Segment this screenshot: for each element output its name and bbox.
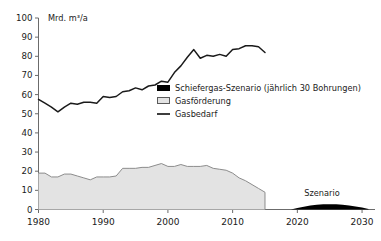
scenario-annotation-label: Szenario <box>304 188 339 198</box>
legend-item-label: Gasbedarf <box>175 109 218 119</box>
x-tick-label: 1990 <box>92 217 115 227</box>
x-tick-label: 2020 <box>286 217 309 227</box>
legend-swatch-production <box>158 98 170 104</box>
y-tick-label: 0 <box>27 205 32 215</box>
y-tick-label: 60 <box>22 90 33 100</box>
x-tick-label: 2000 <box>156 217 179 227</box>
y-tick-label: 90 <box>22 32 33 42</box>
legend-swatch-scenario <box>157 85 170 91</box>
gas-demand-production-chart: 0102030405060708090100 19801990200020102… <box>0 0 381 241</box>
y-axis-unit-label: Mrd. m³/a <box>48 13 88 23</box>
y-tick-label: 10 <box>22 185 33 195</box>
x-tick-label: 2030 <box>351 217 374 227</box>
y-tick-label: 20 <box>22 166 33 176</box>
y-tick-label: 100 <box>16 13 32 23</box>
legend-item-label: Gasförderung <box>175 96 231 106</box>
x-tick-label: 2010 <box>221 217 244 227</box>
y-tick-label: 40 <box>22 128 33 138</box>
x-tick-label: 1980 <box>27 217 50 227</box>
y-tick-label: 70 <box>22 70 33 80</box>
y-tick-label: 30 <box>22 147 33 157</box>
y-tick-label: 80 <box>22 51 33 61</box>
chart-container: 0102030405060708090100 19801990200020102… <box>0 0 381 241</box>
y-tick-label: 50 <box>22 109 33 119</box>
legend-item-label: Schiefergas-Szenario (jährlich 30 Bohrun… <box>175 83 361 93</box>
